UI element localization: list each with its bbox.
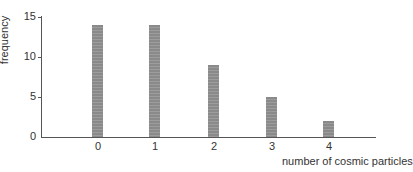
y-tick-0: 0	[22, 130, 36, 142]
y-tick-10: 10	[22, 50, 36, 62]
bar-2	[208, 65, 219, 137]
y-axis	[41, 16, 42, 137]
x-axis	[41, 137, 376, 138]
x-tick-1: 1	[149, 140, 161, 152]
x-tick-0: 0	[92, 140, 104, 152]
x-tick-2: 2	[208, 140, 220, 152]
bar-1	[149, 25, 160, 137]
x-axis-label: number of cosmic particles	[282, 155, 413, 167]
bar-4	[323, 121, 334, 137]
x-tick-3: 3	[266, 140, 278, 152]
y-axis-label: frequency	[0, 16, 10, 64]
y-axis-label-wrap: frequency	[2, 12, 22, 72]
bar-3	[266, 97, 277, 137]
y-tick-15: 15	[22, 10, 36, 22]
y-tick-5: 5	[22, 90, 36, 102]
x-tick-4: 4	[323, 140, 335, 152]
bar-0	[92, 25, 103, 137]
